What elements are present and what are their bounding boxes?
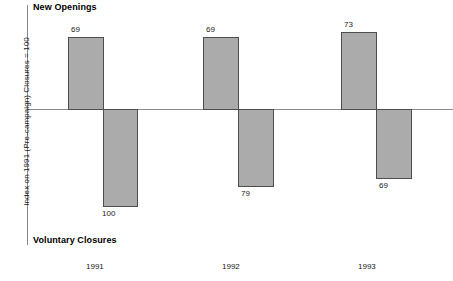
bar-chart: Index on 1991 (Pre-campaign) Closures = … (0, 0, 453, 281)
x-axis-tick-1991: 1991 (86, 262, 104, 271)
bar-1992-voluntary-closures (238, 109, 274, 187)
bar-1991-voluntary-closures (103, 109, 138, 207)
bar-1991-new-openings (68, 37, 104, 110)
bar-1993-voluntary-closures (376, 109, 412, 179)
bar-value-label: 69 (71, 25, 80, 34)
bar-value-label: 69 (379, 181, 388, 190)
bar-value-label: 69 (206, 25, 215, 34)
bar-1992-new-openings (203, 37, 239, 110)
bar-value-label: 73 (344, 20, 353, 29)
new-openings-caption: New Openings (33, 2, 97, 12)
bar-value-label: 79 (241, 189, 250, 198)
y-axis-title: Index on 1991 (Pre-campaign) Closures = … (22, 17, 31, 227)
x-axis-tick-1993: 1993 (358, 262, 376, 271)
bar-value-label: 100 (102, 209, 115, 218)
x-axis-tick-1992: 1992 (222, 262, 240, 271)
bar-1993-new-openings (341, 32, 377, 110)
voluntary-closures-caption: Voluntary Closures (33, 235, 117, 245)
